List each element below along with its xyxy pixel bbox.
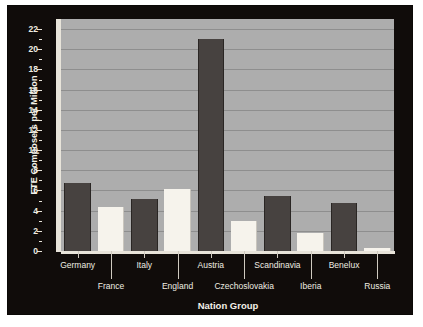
y-axis-minor-tick — [39, 80, 42, 81]
gridline — [61, 190, 394, 191]
y-axis-tick-label: 0 — [33, 247, 38, 256]
bar — [297, 233, 324, 251]
y-axis-minor-tick — [39, 59, 42, 60]
x-axis-tick-label: Italy — [136, 261, 152, 270]
y-axis-tick-label: 14 — [29, 106, 38, 115]
y-axis-minor-tick — [39, 221, 42, 222]
x-axis-tick — [211, 251, 212, 258]
x-axis-tick — [277, 251, 278, 258]
x-axis-tick-label: Russia — [364, 282, 390, 291]
x-axis-tick — [244, 251, 245, 279]
bar — [64, 183, 91, 251]
gridline — [61, 69, 394, 70]
y-axis-minor-tick — [39, 180, 42, 181]
x-axis-tick-label: Germany — [60, 261, 95, 270]
chart-panel: FTE Composers per Million 02468101214161… — [8, 6, 412, 314]
y-axis-tick-label: 12 — [29, 126, 38, 135]
y-axis-tick-label: 18 — [29, 65, 38, 74]
y-axis-tick-label: 20 — [29, 45, 38, 54]
bar — [164, 189, 191, 251]
x-axis-tick-label: Scandinavia — [254, 261, 300, 270]
x-axis-tick-label: England — [162, 282, 193, 291]
x-axis-tick-label: Iberia — [300, 282, 321, 291]
y-axis-minor-tick — [39, 160, 42, 161]
y-axis-tick-label: 8 — [33, 166, 38, 175]
x-axis-tick — [144, 251, 145, 258]
y-axis-minor-tick — [39, 140, 42, 141]
bar — [98, 207, 125, 251]
gridline — [61, 110, 394, 111]
gridline — [61, 150, 394, 151]
y-axis-minor-tick — [39, 120, 42, 121]
gridline — [61, 170, 394, 171]
y-axis-minor-tick — [39, 241, 42, 242]
y-axis-minor-tick — [39, 39, 42, 40]
plot-area — [61, 19, 394, 251]
gridline — [61, 90, 394, 91]
x-axis-tick — [178, 251, 179, 279]
y-axis-tick-label: 10 — [29, 146, 38, 155]
x-axis-tick — [78, 251, 79, 258]
y-axis-tick-label: 2 — [33, 227, 38, 236]
y-axis-tick-label: 6 — [33, 186, 38, 195]
gridline — [61, 29, 394, 30]
y-axis-tick-label: 16 — [29, 85, 38, 94]
x-axis-tick-label: Czechoslovakia — [214, 282, 274, 291]
x-axis-tick — [344, 251, 345, 258]
x-axis-tick — [311, 251, 312, 279]
bar — [231, 221, 258, 251]
bar — [331, 203, 358, 251]
x-axis-tick-label: Benelux — [329, 261, 360, 270]
x-axis-tick-label: Austria — [198, 261, 224, 270]
y-axis-tick-label: 4 — [33, 206, 38, 215]
gridline — [61, 49, 394, 50]
x-axis-tick — [377, 251, 378, 279]
chart-figure: FTE Composers per Million 02468101214161… — [0, 0, 423, 327]
x-axis-tick — [111, 251, 112, 279]
bar — [264, 196, 291, 251]
y-axis-minor-tick — [39, 100, 42, 101]
gridline — [61, 130, 394, 131]
bar — [198, 39, 225, 251]
y-axis-minor-tick — [39, 201, 42, 202]
x-axis-title: Nation Group — [61, 300, 395, 311]
bar — [131, 199, 158, 251]
y-axis-tick-label: 22 — [29, 25, 38, 34]
x-axis-tick-label: France — [98, 282, 124, 291]
